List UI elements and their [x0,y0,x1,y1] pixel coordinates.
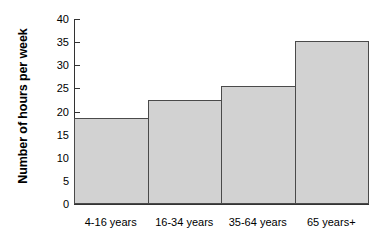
y-axis-tick-label: 10 [47,153,69,164]
x-axis-category-label: 4-16 years [74,216,148,228]
plot-area [74,19,368,204]
y-axis-tick-label: 40 [47,14,69,25]
y-axis-title-text: Number of hours per week [16,28,30,183]
bar [295,41,370,204]
x-axis-category-label: 35-64 years [221,216,295,228]
y-axis-tick-mark [75,204,80,205]
y-axis-tick-label: 20 [47,107,69,118]
x-axis-category-label: 65 years+ [295,216,369,228]
bar-chart: Number of hours per week 051015202530354… [0,0,385,245]
y-axis-tick-label: 25 [47,83,69,94]
y-axis-tick-label: 35 [47,37,69,48]
bar [148,100,223,204]
y-axis-tick-label: 0 [47,199,69,210]
y-axis-title: Number of hours per week [12,0,34,212]
bar [74,118,149,204]
bar [221,86,296,204]
y-axis-tick-label: 5 [47,176,69,187]
x-axis-line [74,204,369,205]
y-axis-tick-label: 15 [47,130,69,141]
x-axis-category-label: 16-34 years [148,216,222,228]
y-axis-tick-label: 30 [47,60,69,71]
